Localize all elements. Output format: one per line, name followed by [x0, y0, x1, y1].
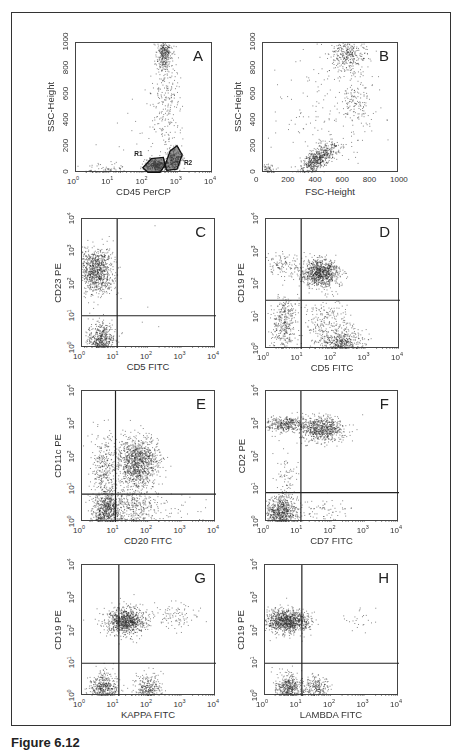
panel-letter: E — [196, 395, 206, 412]
y-tick-label: 102 — [250, 446, 261, 466]
x-tick-label: 102 — [324, 351, 336, 362]
gate-label-r2: R2 — [184, 159, 192, 166]
y-tick-label: 800 — [248, 58, 257, 78]
y-axis-label: CD2 PE — [235, 390, 247, 521]
x-tick-label: 102 — [136, 175, 148, 186]
x-tick-label: 200 — [281, 175, 294, 184]
y-tick-label: 104 — [66, 380, 77, 400]
x-axis-label: CD7 FITC — [265, 535, 398, 546]
x-tick-label: 102 — [324, 524, 336, 535]
x-tick-label: 600 — [336, 175, 349, 184]
x-tick-label: 101 — [107, 350, 119, 361]
y-tick-label: 103 — [66, 587, 77, 607]
y-axis-label: SSC-Height — [45, 42, 57, 172]
x-tick-label: 103 — [174, 524, 186, 535]
y-tick-label: 104 — [250, 208, 261, 228]
x-axis-label: CD20 FITC — [81, 535, 215, 546]
panel-letter: A — [193, 47, 203, 64]
y-tick-label: 600 — [61, 84, 70, 104]
y-tick-label: 102 — [250, 273, 261, 293]
x-tick-label: 104 — [204, 175, 216, 186]
scatter-plot-e: E — [81, 390, 215, 521]
x-tick-label: 104 — [207, 350, 219, 361]
y-axis-label: CD19 PE — [235, 218, 247, 348]
y-tick-label: 400 — [61, 110, 70, 130]
y-tick-label: 0 — [248, 162, 257, 182]
y-tick-label: 100 — [66, 337, 77, 357]
x-tick-label: 800 — [363, 175, 376, 184]
y-tick-label: 104 — [66, 554, 77, 574]
y-tick-label: 103 — [66, 241, 77, 261]
y-tick-label: 101 — [250, 479, 261, 499]
y-tick-label: 104 — [66, 208, 77, 228]
panel-letter: H — [378, 569, 389, 586]
y-tick-label: 200 — [248, 136, 257, 156]
x-axis-label: LAMBDA FITC — [264, 709, 398, 720]
x-axis-label: CD45 PerCP — [75, 186, 212, 197]
x-tick-label: 103 — [174, 698, 186, 709]
scatter-plot-h: H — [264, 564, 398, 695]
x-tick-label: 103 — [357, 698, 369, 709]
x-tick-label: 102 — [140, 350, 152, 361]
y-tick-label: 800 — [61, 58, 70, 78]
y-tick-label: 103 — [250, 241, 261, 261]
x-axis-label: CD5 FITC — [81, 361, 215, 372]
y-tick-label: 100 — [250, 338, 261, 358]
x-tick-label: 102 — [140, 524, 152, 535]
scatter-plot-a: R1R2A — [75, 42, 212, 172]
x-axis-label: FSC-Height — [262, 186, 398, 197]
y-tick-label: 101 — [66, 653, 77, 673]
y-tick-label: 102 — [66, 273, 77, 293]
x-tick-label: 400 — [308, 175, 321, 184]
y-tick-label: 101 — [66, 479, 77, 499]
x-tick-label: 101 — [107, 524, 119, 535]
x-tick-label: 101 — [107, 698, 119, 709]
x-tick-label: 104 — [207, 698, 219, 709]
y-axis-label: CD19 PE — [51, 564, 63, 695]
scatter-plot-c: C — [81, 218, 215, 347]
figure-caption: Figure 6.12 — [11, 735, 80, 750]
y-tick-label: 1000 — [61, 32, 70, 52]
panel-letter: G — [194, 569, 206, 586]
scatter-plot-g: G — [81, 564, 215, 695]
y-tick-label: 102 — [66, 446, 77, 466]
y-tick-label: 103 — [66, 413, 77, 433]
x-tick-label: 104 — [391, 351, 403, 362]
x-tick-label: 103 — [174, 350, 186, 361]
x-tick-label: 101 — [290, 524, 302, 535]
x-tick-label: 1000 — [390, 175, 408, 184]
y-tick-label: 400 — [248, 110, 257, 130]
x-tick-label: 102 — [323, 698, 335, 709]
y-tick-label: 0 — [61, 162, 70, 182]
x-tick-label: 101 — [290, 698, 302, 709]
x-tick-label: 103 — [170, 175, 182, 186]
y-tick-label: 101 — [249, 653, 260, 673]
y-tick-label: 200 — [61, 136, 70, 156]
y-tick-label: 103 — [249, 587, 260, 607]
x-tick-label: 102 — [140, 698, 152, 709]
y-tick-label: 100 — [249, 685, 260, 705]
y-tick-label: 104 — [250, 380, 261, 400]
x-tick-label: 103 — [357, 524, 369, 535]
x-tick-label: 101 — [101, 175, 113, 186]
x-tick-label: 104 — [390, 524, 402, 535]
x-tick-label: 103 — [358, 351, 370, 362]
y-tick-label: 600 — [248, 84, 257, 104]
scatter-plot-b: B — [262, 42, 398, 172]
y-tick-label: 1000 — [248, 32, 257, 52]
x-tick-label: 101 — [291, 351, 303, 362]
y-tick-label: 101 — [66, 305, 77, 325]
y-axis-label: SSC-Height — [232, 42, 244, 172]
y-tick-label: 103 — [250, 413, 261, 433]
panel-letter: F — [380, 395, 389, 412]
y-axis-label: CD11c PE — [51, 390, 63, 521]
y-tick-label: 102 — [66, 620, 77, 640]
panel-letter: B — [379, 47, 389, 64]
y-tick-label: 104 — [249, 554, 260, 574]
x-axis-label: KAPPA FITC — [81, 709, 215, 720]
scatter-plot-f: F — [265, 390, 398, 521]
x-axis-label: CD5 FITC — [265, 362, 399, 373]
scatter-plot-d: D — [265, 218, 399, 348]
x-tick-label: 104 — [390, 698, 402, 709]
y-tick-label: 101 — [250, 306, 261, 326]
